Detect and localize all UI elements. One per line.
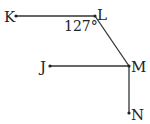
label-j: J [38, 58, 46, 76]
label-m: M [131, 58, 146, 76]
label-n: N [131, 106, 144, 124]
geometry-diagram: K L J M N 127° [0, 0, 150, 124]
label-k: K [4, 8, 16, 26]
label-l: L [97, 6, 107, 24]
point-j [48, 64, 51, 67]
angle-label: 127° [64, 18, 98, 34]
